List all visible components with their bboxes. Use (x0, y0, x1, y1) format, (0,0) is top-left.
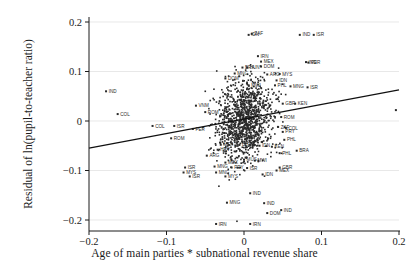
data-point: PHL (274, 83, 287, 88)
point-label: ARG (270, 72, 280, 77)
point-label: IND (302, 32, 311, 37)
point-label: HRV (220, 147, 231, 152)
point-label: IND (253, 191, 262, 196)
point-label: BLR (242, 142, 252, 147)
point-label: IRN (219, 222, 227, 227)
point-label: KEN (275, 144, 284, 149)
point-label: PHL (287, 137, 296, 142)
point-label: HUN (250, 65, 260, 70)
point-label: MNG (293, 84, 304, 89)
x-tick-label: 0.2 (392, 236, 405, 247)
point-label: DOM (228, 76, 239, 81)
data-point: IDN (248, 32, 260, 37)
point-label: ROM (284, 115, 295, 120)
data-point: MWI (248, 83, 261, 88)
point-label: ISR (310, 85, 318, 90)
point-label: MNG (230, 200, 241, 205)
y-tick-label: 0.2 (69, 17, 82, 28)
point-label: ROM (208, 110, 219, 115)
point-label: COL (120, 112, 130, 117)
data-point: VNM (195, 103, 209, 108)
axes (89, 17, 400, 231)
point-label: MWI (251, 83, 260, 88)
point-label: ROM (174, 136, 185, 141)
data-point (395, 109, 397, 111)
data-point: ARG (266, 72, 280, 77)
y-tick-label: −0.2 (63, 215, 82, 226)
data-point: IND (249, 191, 261, 196)
point-label: PRY (234, 165, 243, 170)
data-point: KEN (271, 144, 284, 149)
point-label: IDN (265, 172, 273, 177)
data-point: IRN (249, 222, 261, 227)
data-point: MNG (214, 164, 229, 169)
data-point: PRY (282, 129, 295, 134)
data-point: ROM (170, 136, 184, 141)
point-label: DOM (270, 211, 281, 216)
point-label: PRY (285, 129, 294, 134)
y-axis-title: Residual of ln(pupil-to-teacher ratio) (22, 4, 34, 244)
data-point: GBR (282, 101, 296, 106)
data-point: ISR (173, 124, 185, 129)
data-point: IDN (262, 172, 274, 177)
y-tick-label: 0.1 (69, 66, 82, 77)
plot-canvas: ZAFIDNINDISRIRNMEXINDPERDOMBRAHUNMNGMYSA… (0, 0, 409, 269)
x-tick-label: −0.1 (157, 236, 176, 247)
x-tick-label: −0.2 (79, 236, 98, 247)
point-label: MEX (279, 168, 289, 173)
data-point: DOM (266, 211, 280, 216)
y-tick-label: −0.1 (63, 165, 82, 176)
point-label: MYS (282, 72, 292, 77)
scatter-plot-figure: ZAFIDNINDISRIRNMEXINDPERDOMBRAHUNMNGMYSA… (0, 0, 409, 269)
data-point: IND (105, 89, 117, 94)
point-label: ISR (177, 124, 185, 129)
point-label: IRN (261, 54, 269, 59)
point-label: PHL (278, 83, 287, 88)
data-point: COL (117, 112, 130, 117)
data-point: ARG (206, 153, 220, 158)
data-point: KEN (294, 101, 307, 106)
data-point: PRY (231, 165, 244, 170)
point-label: VNM (199, 103, 209, 108)
data-point: IND (299, 32, 311, 37)
data-point: IRN (215, 222, 227, 227)
data-point: ROM (280, 115, 294, 120)
data-point: BRA (296, 148, 310, 153)
x-axis-title: Age of main parties * subnational revenu… (0, 247, 409, 259)
data-point: PHL (283, 137, 296, 142)
data-point: PHL (279, 151, 292, 156)
data-point: IND (280, 208, 292, 213)
point-label: MNG (237, 71, 248, 76)
data-point: ISR (307, 85, 319, 90)
regression-line (89, 90, 399, 148)
point-label: BRA (299, 148, 309, 153)
data-point: MNG (226, 200, 241, 205)
data-point: IDN (259, 143, 271, 148)
point-label: ISR (316, 32, 324, 37)
point-label: IDN (251, 32, 259, 37)
x-tick-label: 0 (241, 236, 246, 247)
point-label: PER (311, 60, 321, 65)
point-label: ISR (250, 166, 258, 171)
point-label: DOM (264, 64, 275, 69)
point-label: KEN (298, 101, 307, 106)
point-label: IND (267, 201, 276, 206)
data-point: MNG (290, 84, 305, 89)
point-label: IND (284, 208, 293, 213)
data-point: ROM (204, 110, 218, 115)
point-label: MYS (228, 174, 238, 179)
point-label: IDN (262, 143, 270, 148)
data-point: DOM (224, 76, 238, 81)
data-point: IND (263, 201, 275, 206)
point-label: ISR (192, 174, 200, 179)
point-label: MWI (257, 158, 266, 163)
point-label: ARG (209, 153, 219, 158)
point-label: COL (155, 124, 165, 129)
data-point: ISR (246, 166, 258, 171)
data-point: COL (152, 124, 165, 129)
point-label: IRN (253, 222, 261, 227)
data-point: DOM (260, 64, 274, 69)
data-point: IRN (257, 54, 269, 59)
data-point: ISR (313, 32, 325, 37)
y-tick-label: 0 (77, 116, 82, 127)
